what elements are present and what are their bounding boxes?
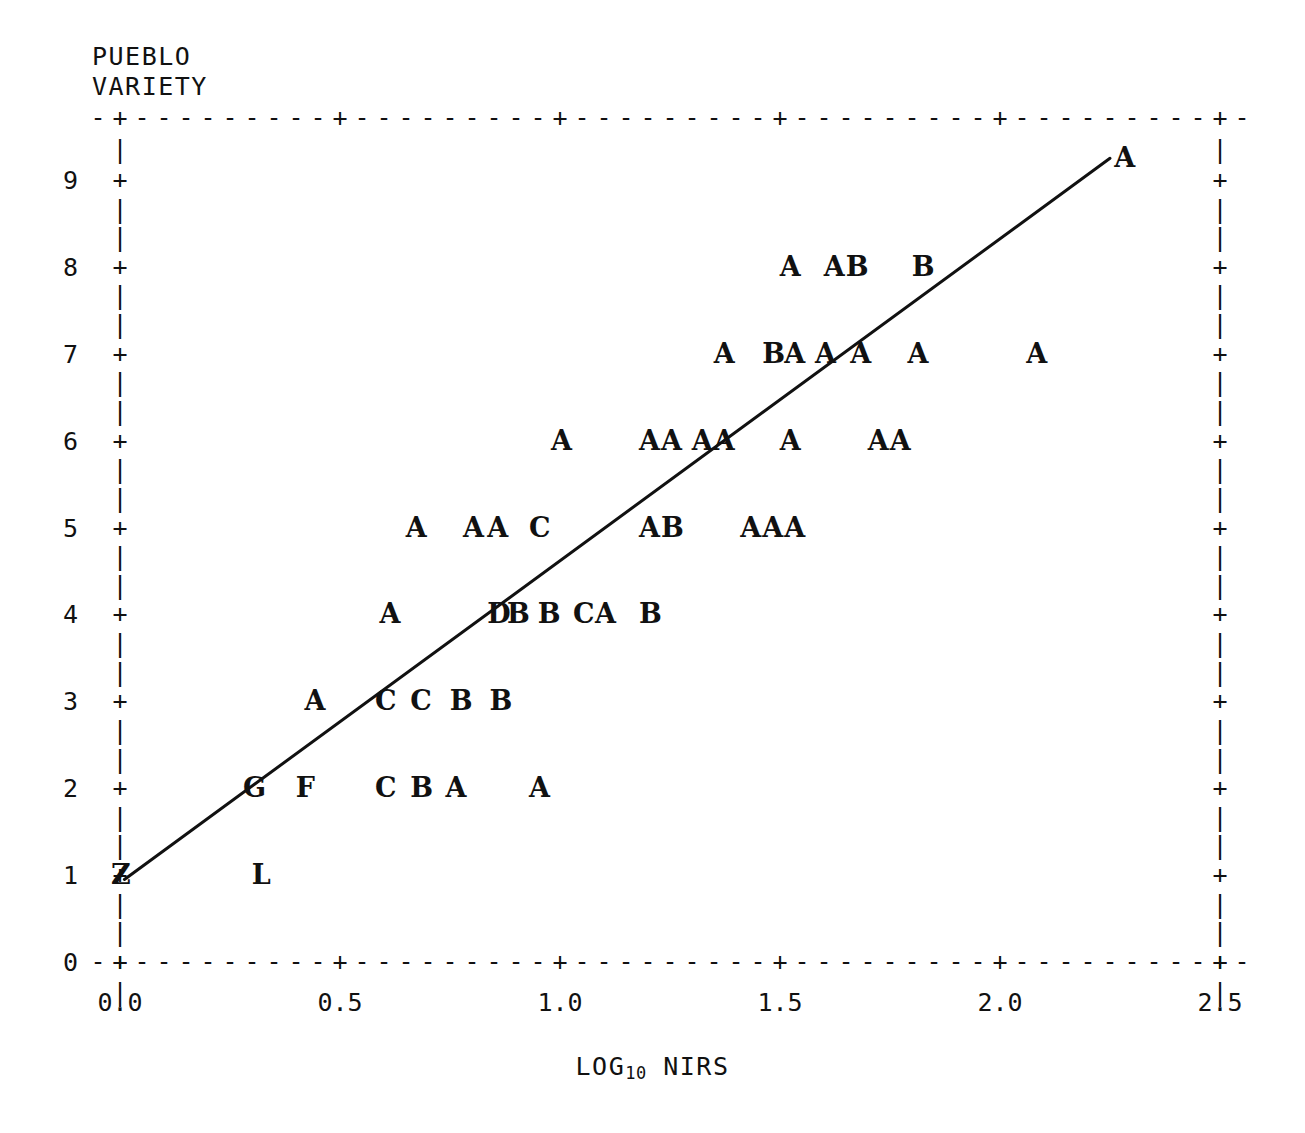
bottom-border-dash: - — [483, 949, 505, 974]
top-border-dash: - — [285, 105, 307, 130]
bottom-border-dash: - — [417, 949, 439, 974]
right-axis-rule: | — [1209, 573, 1231, 598]
right-axis-rule: | — [1209, 718, 1231, 743]
top-border-tick: + — [549, 105, 571, 130]
data-point-A: A — [595, 600, 617, 627]
top-border-dash: - — [505, 105, 527, 130]
bottom-border-dash: - — [1077, 949, 1099, 974]
data-point-B: B — [661, 514, 685, 541]
left-axis-rule: | — [109, 137, 131, 162]
x-tick-label-2-0: 2.0 — [960, 990, 1040, 1015]
bottom-border-dash: - — [637, 949, 659, 974]
right-axis-rule: | — [1209, 544, 1231, 569]
top-border-dash: - — [835, 105, 857, 130]
data-point-A: A — [1114, 144, 1136, 171]
y-tick-label-9: 9 — [48, 168, 78, 193]
x-tick-label-1-0: 1.0 — [520, 990, 600, 1015]
bottom-border-dash: - — [373, 949, 395, 974]
left-axis-rule: | — [109, 660, 131, 685]
data-point-A: A — [780, 253, 802, 280]
right-axis-rule: | — [1209, 399, 1231, 424]
bottom-border-dash: - — [901, 949, 923, 974]
data-point-A: A — [815, 340, 837, 367]
top-border-dash: - — [813, 105, 835, 130]
data-point-A: A — [406, 514, 428, 541]
y-axis-title-line1: PUEBLO — [92, 42, 191, 71]
top-border-tick: + — [769, 105, 791, 130]
top-border-dash: - — [1143, 105, 1165, 130]
right-axis-rule: | — [1209, 660, 1231, 685]
left-axis-rule: | — [109, 283, 131, 308]
bottom-border-dash: - — [945, 949, 967, 974]
data-point-B: B — [450, 687, 474, 714]
bottom-border-dash: - — [263, 949, 285, 974]
x-tick-label-2-5: 2.5 — [1180, 990, 1260, 1015]
top-border-tick: + — [329, 105, 351, 130]
top-border-dash: - — [197, 105, 219, 130]
bottom-border-dash: - — [659, 949, 681, 974]
top-border-dash: - — [1011, 105, 1033, 130]
data-point-B: B — [507, 600, 531, 627]
data-point-A: A — [1026, 340, 1048, 367]
left-axis-tick: + — [109, 254, 131, 279]
right-axis-rule: | — [1209, 920, 1231, 945]
y-tick-label-8: 8 — [48, 255, 78, 280]
bottom-border-dash: - — [879, 949, 901, 974]
data-point-A: A — [850, 340, 872, 367]
top-border-dash: - — [901, 105, 923, 130]
right-axis-rule: | — [1209, 833, 1231, 858]
data-point-B: B — [912, 253, 936, 280]
left-axis-tick: + — [109, 515, 131, 540]
bottom-border-dash: - — [835, 949, 857, 974]
x-axis-title-base: LOG — [576, 1052, 626, 1081]
right-axis-rule: | — [1209, 892, 1231, 917]
data-point-A: A — [639, 514, 661, 541]
top-border-dash: - — [1033, 105, 1055, 130]
left-axis-rule: | — [109, 805, 131, 830]
top-border-dash: - — [571, 105, 593, 130]
y-tick-label-3: 3 — [48, 689, 78, 714]
top-border-dash: - — [1055, 105, 1077, 130]
bottom-border-dash: - — [351, 949, 373, 974]
top-border-dash: - — [439, 105, 461, 130]
right-axis-rule: | — [1209, 197, 1231, 222]
right-axis-rule: | — [1209, 747, 1231, 772]
top-border-dash: - — [461, 105, 483, 130]
right-axis-rule: | — [1209, 486, 1231, 511]
top-border-dash: - — [1231, 105, 1253, 130]
bottom-border-tick: + — [989, 949, 1011, 974]
data-point-A: A — [305, 687, 327, 714]
data-point-A: A — [890, 427, 912, 454]
top-border-dash: - — [351, 105, 373, 130]
bottom-border-dash: - — [505, 949, 527, 974]
left-axis-tick: + — [109, 775, 131, 800]
right-axis-tick: + — [1209, 515, 1231, 540]
data-point-C: C — [375, 774, 398, 801]
bottom-border-dash: - — [1055, 949, 1077, 974]
left-axis-rule: | — [109, 225, 131, 250]
bottom-border-tick: + — [769, 949, 791, 974]
top-border-dash: - — [307, 105, 329, 130]
bottom-border-dash: - — [593, 949, 615, 974]
bottom-border-dash: - — [857, 949, 879, 974]
top-border-dash: - — [879, 105, 901, 130]
top-border-dash: - — [483, 105, 505, 130]
data-point-A: A — [487, 514, 509, 541]
data-point-A: A — [551, 427, 573, 454]
top-border-dash: - — [373, 105, 395, 130]
top-border-dash: - — [681, 105, 703, 130]
data-point-B: B — [762, 340, 786, 367]
top-border-dash: - — [659, 105, 681, 130]
bottom-border-dash: - — [285, 949, 307, 974]
top-border-dash: - — [945, 105, 967, 130]
left-axis-rule: | — [109, 833, 131, 858]
data-point-A: A — [784, 514, 806, 541]
regression-line — [124, 158, 1110, 879]
bottom-border-dash: - — [1231, 949, 1253, 974]
left-axis-rule: | — [109, 920, 131, 945]
data-point-B: B — [410, 774, 434, 801]
data-point-G: G — [243, 774, 267, 801]
y-axis-title-line2: VARIETY — [92, 72, 208, 101]
top-border-dash: - — [1077, 105, 1099, 130]
data-point-A: A — [379, 600, 401, 627]
